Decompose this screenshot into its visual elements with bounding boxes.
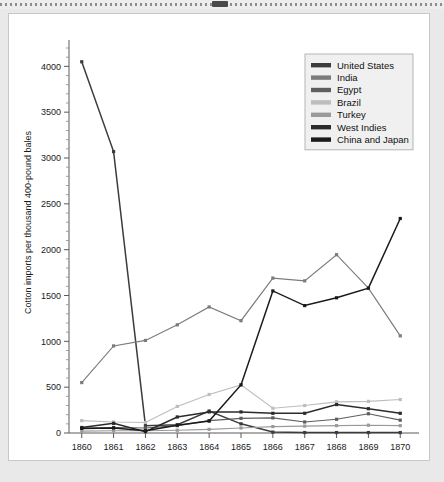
- data-point: [367, 412, 370, 415]
- data-point: [399, 398, 402, 401]
- data-point: [112, 426, 115, 429]
- data-point: [303, 425, 306, 428]
- data-point: [335, 296, 338, 299]
- line-chart[interactable]: 0500100015002000250030003500400018601861…: [9, 14, 429, 460]
- data-point: [208, 419, 211, 422]
- legend-label-egypt[interactable]: Egypt: [337, 84, 362, 95]
- x-tick-label: 1861: [104, 442, 124, 452]
- y-tick-label: 2000: [41, 245, 61, 255]
- data-point: [303, 420, 306, 423]
- data-point: [80, 419, 83, 422]
- data-point: [80, 427, 83, 430]
- data-point: [399, 419, 402, 422]
- figure-card: 0500100015002000250030003500400018601861…: [8, 13, 430, 461]
- x-tick-label: 1863: [167, 442, 187, 452]
- data-point: [399, 217, 402, 220]
- x-tick-label: 1867: [295, 442, 315, 452]
- data-point: [112, 344, 115, 347]
- legend-swatch-egypt[interactable]: [311, 88, 331, 92]
- y-tick-label: 3500: [41, 107, 61, 117]
- legend-label-china-and-japan[interactable]: China and Japan: [337, 134, 409, 145]
- chart-plot-area[interactable]: 0500100015002000250030003500400018601861…: [9, 14, 429, 460]
- data-point: [144, 426, 147, 429]
- legend-label-india[interactable]: India: [337, 72, 358, 83]
- legend-swatch-china-and-japan[interactable]: [311, 137, 331, 141]
- data-point: [208, 410, 211, 413]
- data-point: [112, 429, 115, 432]
- legend-swatch-west-indies[interactable]: [311, 125, 331, 129]
- y-tick-label: 0: [56, 428, 61, 438]
- data-point: [239, 383, 242, 386]
- x-tick-label: 1862: [135, 442, 155, 452]
- y-tick-label: 2500: [41, 199, 61, 209]
- data-point: [271, 425, 274, 428]
- legend-label-west-indies[interactable]: West Indies: [337, 122, 387, 133]
- data-point: [112, 422, 115, 425]
- data-point: [80, 60, 83, 63]
- data-point: [367, 424, 370, 427]
- data-point: [303, 431, 306, 434]
- data-point: [399, 424, 402, 427]
- data-point: [208, 393, 211, 396]
- legend-swatch-united-states[interactable]: [311, 63, 331, 67]
- data-point: [271, 412, 274, 415]
- x-tick-label: 1866: [263, 442, 283, 452]
- data-point: [208, 428, 211, 431]
- data-point: [239, 426, 242, 429]
- data-point: [271, 276, 274, 279]
- data-point: [208, 305, 211, 308]
- chart-legend[interactable]: United StatesIndiaEgyptBrazilTurkeyWest …: [305, 54, 413, 150]
- data-point: [367, 431, 370, 434]
- legend-label-brazil[interactable]: Brazil: [337, 97, 361, 108]
- data-point: [80, 381, 83, 384]
- data-point: [271, 289, 274, 292]
- x-tick-label: 1865: [231, 442, 251, 452]
- data-point: [335, 403, 338, 406]
- data-point: [335, 253, 338, 256]
- drag-handle[interactable]: [212, 1, 228, 7]
- data-point: [367, 287, 370, 290]
- legend-swatch-india[interactable]: [311, 75, 331, 79]
- data-point: [399, 412, 402, 415]
- y-tick-label: 3000: [41, 153, 61, 163]
- data-point: [271, 416, 274, 419]
- data-point: [144, 339, 147, 342]
- y-tick-label: 500: [46, 382, 61, 392]
- legend-swatch-turkey[interactable]: [311, 113, 331, 117]
- data-point: [176, 323, 179, 326]
- data-point: [367, 407, 370, 410]
- y-tick-label: 1500: [41, 291, 61, 301]
- legend-label-turkey[interactable]: Turkey: [337, 109, 366, 120]
- data-point: [335, 431, 338, 434]
- x-tick-label: 1868: [327, 442, 347, 452]
- data-point: [239, 410, 242, 413]
- data-point: [176, 424, 179, 427]
- data-point: [112, 150, 115, 153]
- data-point: [176, 405, 179, 408]
- data-point: [303, 404, 306, 407]
- data-point: [303, 304, 306, 307]
- data-point: [303, 412, 306, 415]
- y-tick-label: 1000: [41, 337, 61, 347]
- x-tick-label: 1869: [358, 442, 378, 452]
- x-tick-label: 1870: [390, 442, 410, 452]
- data-point: [144, 421, 147, 424]
- data-point: [335, 400, 338, 403]
- y-tick-label: 4000: [41, 62, 61, 72]
- data-point: [239, 422, 242, 425]
- data-point: [303, 279, 306, 282]
- data-point: [239, 417, 242, 420]
- series-line-china-and-japan: [82, 219, 401, 431]
- data-point: [271, 407, 274, 410]
- data-point: [335, 424, 338, 427]
- legend-swatch-brazil[interactable]: [311, 100, 331, 104]
- x-tick-label: 1864: [199, 442, 219, 452]
- data-point: [176, 415, 179, 418]
- y-axis-title: Cotton imports per thousand 400-pound ba…: [23, 130, 33, 314]
- data-point: [399, 334, 402, 337]
- legend-label-united-states[interactable]: United States: [337, 60, 394, 71]
- window-top-strip: [0, 0, 444, 9]
- data-point: [335, 418, 338, 421]
- data-point: [144, 429, 147, 432]
- data-point: [399, 431, 402, 434]
